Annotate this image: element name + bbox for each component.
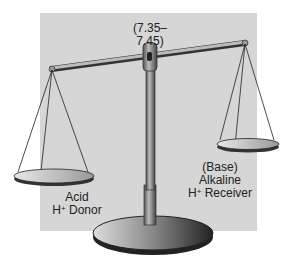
- left-pan: [14, 70, 94, 186]
- scale-pole: [144, 55, 156, 225]
- ph-range-label: (7.35–7.45): [120, 22, 180, 48]
- acid-label-line2: H+ Donor: [42, 204, 112, 217]
- base-label: (Base) Alkaline H+ Receiver: [180, 161, 260, 200]
- right-pan: [217, 44, 279, 153]
- base-label-line3: H+ Receiver: [180, 187, 260, 200]
- acid-label: Acid H+ Donor: [42, 191, 112, 217]
